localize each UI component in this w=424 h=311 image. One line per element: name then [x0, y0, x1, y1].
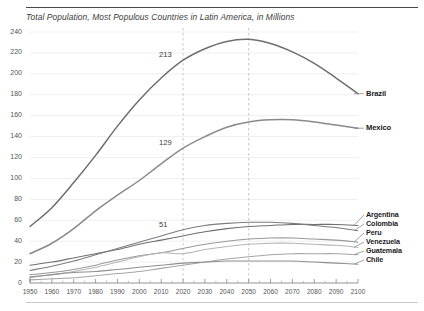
y-tick-label: 60: [0, 216, 22, 223]
y-tick-label: 200: [0, 69, 22, 76]
figure-container: Total Population, Most Populous Countrie…: [0, 0, 424, 311]
y-tick-label: 120: [0, 153, 22, 160]
chart-svg: [0, 0, 424, 311]
y-tick-label: 100: [0, 174, 22, 181]
series-label-brazil: Brazil: [366, 89, 386, 98]
series-label-guatemala: Guatemala: [366, 246, 402, 255]
label-leader-lines: [354, 94, 364, 264]
series-label-argentina: Argentina: [366, 210, 399, 219]
y-tick-label: 240: [0, 28, 22, 35]
annotation-colombia-2020: 51: [159, 220, 167, 229]
series-label-colombia: Colombia: [366, 219, 398, 228]
x-tick-label: 2100: [345, 288, 371, 295]
y-tick-label: 140: [0, 132, 22, 139]
annotation-mexico-2020: 129: [159, 138, 172, 147]
series-label-venezuela: Venezuela: [366, 237, 400, 246]
plot-area: 240220200180160140120100806040200 195019…: [0, 0, 424, 311]
series-label-mexico: Mexico: [366, 123, 391, 132]
y-tick-label: 160: [0, 111, 22, 118]
y-tick-label: 180: [0, 90, 22, 97]
figure-bottom-rule: [26, 302, 418, 303]
y-tick-label: 40: [0, 237, 22, 244]
y-tick-label: 20: [0, 258, 22, 265]
y-tick-label: 0: [0, 279, 22, 286]
annotation-brazil-2020: 213: [159, 50, 172, 59]
x-axis: [30, 277, 358, 283]
y-tick-label: 80: [0, 195, 22, 202]
series-label-chile: Chile: [366, 255, 383, 264]
y-tick-label: 220: [0, 48, 22, 55]
series-lines: [30, 39, 358, 280]
series-label-peru: Peru: [366, 228, 382, 237]
